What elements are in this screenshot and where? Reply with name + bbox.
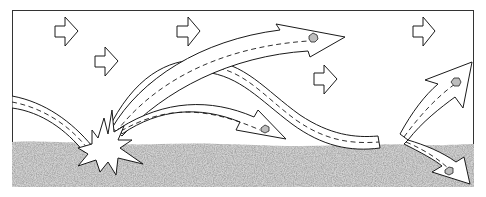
diagram-canvas xyxy=(0,0,486,197)
saltation-diagram xyxy=(0,0,486,197)
